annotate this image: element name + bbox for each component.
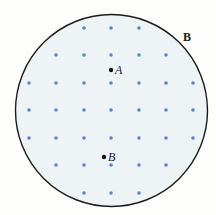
field-dot-out-of-page [109,191,113,195]
point-a-label: A [114,63,123,77]
field-dot-out-of-page [54,53,58,57]
field-dot-out-of-page [27,108,31,112]
field-dot-out-of-page [109,81,113,85]
field-dot-out-of-page [109,26,113,30]
point-b-marker [102,155,106,159]
field-dot-out-of-page [137,26,141,30]
field-dot-out-of-page [191,108,195,112]
field-dot-out-of-page [191,136,195,140]
field-dot-out-of-page [191,81,195,85]
field-dot-out-of-page [54,163,58,167]
field-dot-out-of-page [164,108,168,112]
field-dot-out-of-page [54,136,58,140]
field-dot-out-of-page [82,191,86,195]
magnetic-field-diagram: AB B [0,0,216,215]
field-dot-out-of-page [27,81,31,85]
field-dot-out-of-page [164,136,168,140]
field-dot-out-of-page [54,108,58,112]
field-dot-out-of-page [137,81,141,85]
field-dot-out-of-page [137,108,141,112]
point-a-marker [109,68,113,72]
field-dot-out-of-page [27,136,31,140]
field-dot-out-of-page [137,53,141,57]
field-dot-out-of-page [164,163,168,167]
field-dot-out-of-page [82,26,86,30]
field-dot-out-of-page [164,53,168,57]
field-dot-out-of-page [137,163,141,167]
field-dot-out-of-page [54,81,58,85]
field-dot-out-of-page [109,53,113,57]
field-dot-out-of-page [82,108,86,112]
point-b-label: B [108,150,116,164]
field-dot-out-of-page [137,136,141,140]
field-dot-out-of-page [82,81,86,85]
field-dot-out-of-page [82,136,86,140]
field-dot-out-of-page [137,191,141,195]
field-dot-out-of-page [164,81,168,85]
field-dot-out-of-page [82,53,86,57]
field-dot-out-of-page [109,136,113,140]
field-label-b: B [183,30,191,44]
field-dot-out-of-page [109,108,113,112]
field-dot-out-of-page [82,163,86,167]
